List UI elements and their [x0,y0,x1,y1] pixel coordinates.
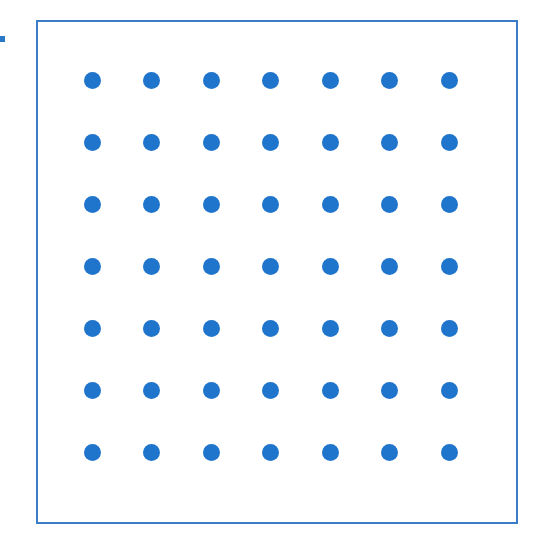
grid-dot [262,258,279,275]
grid-dot [262,320,279,337]
grid-dot [203,320,220,337]
grid-dot [84,382,101,399]
grid-dot [203,196,220,213]
grid-dot [441,196,458,213]
grid-dot [262,134,279,151]
grid-dot [322,444,339,461]
grid-dot [262,196,279,213]
grid-dot [84,320,101,337]
grid-dot [322,258,339,275]
grid-dot [322,382,339,399]
grid-dot [381,72,398,89]
grid-dot [441,382,458,399]
grid-dot [381,196,398,213]
grid-dot [143,258,160,275]
grid-dot [381,258,398,275]
grid-dot [322,134,339,151]
grid-dot [143,134,160,151]
grid-dot [143,320,160,337]
grid-dot [203,382,220,399]
grid-dot [203,134,220,151]
grid-dot [203,444,220,461]
grid-dot [441,72,458,89]
grid-dot [322,320,339,337]
grid-dot [441,444,458,461]
grid-dot [143,444,160,461]
grid-dot [262,382,279,399]
grid-dot [84,444,101,461]
grid-dot [84,196,101,213]
grid-dot [203,72,220,89]
grid-dot [262,444,279,461]
grid-dot [143,196,160,213]
grid-dot [84,72,101,89]
grid-dot [322,196,339,213]
grid-dot [441,258,458,275]
grid-dot [84,258,101,275]
grid-dot [381,134,398,151]
grid-dot [381,382,398,399]
grid-dot [441,320,458,337]
grid-dot [322,72,339,89]
grid-dot [84,134,101,151]
edge-mark [0,36,5,42]
grid-dot [381,320,398,337]
grid-dot [203,258,220,275]
grid-dot [262,72,279,89]
grid-dot [441,134,458,151]
grid-dot [143,382,160,399]
grid-dot [143,72,160,89]
grid-dot [381,444,398,461]
